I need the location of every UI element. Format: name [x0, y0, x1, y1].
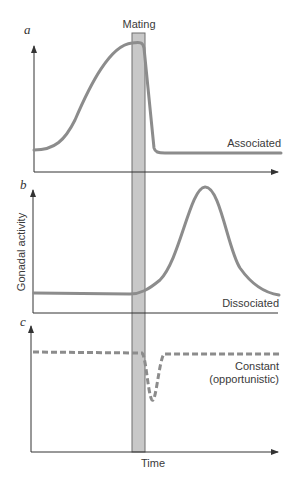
x-axis-label: Time	[141, 457, 165, 469]
y-axis-label: Gonadal activity	[15, 212, 27, 291]
reproductive-strategy-diagram: Mating a Associated b Gonadal activity D…	[0, 0, 297, 485]
panel-c-letter: c	[20, 314, 26, 329]
panel-a: a Associated	[24, 22, 281, 172]
dissociated-label: Dissociated	[222, 297, 279, 309]
panel-a-letter: a	[24, 22, 31, 37]
panel-b: b Gonadal activity Dissociated	[15, 177, 279, 313]
panel-c: c Constant (opportunistic) Time	[20, 314, 280, 469]
constant-label: Constant	[235, 360, 279, 372]
mating-bar	[132, 33, 145, 452]
dissociated-curve	[34, 187, 279, 295]
opportunistic-label: (opportunistic)	[209, 373, 279, 385]
associated-label: Associated	[227, 137, 281, 149]
panel-b-letter: b	[20, 177, 27, 192]
mating-label: Mating	[122, 18, 155, 30]
